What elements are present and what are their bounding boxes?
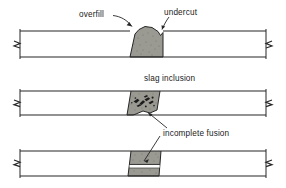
welding-defects-figure: overfill undercut (0, 0, 286, 188)
weld-bead-incomplete-fusion (128, 151, 161, 176)
figure-svg: overfill undercut (0, 0, 286, 188)
label-incomplete-fusion: incomplete fusion (163, 129, 230, 138)
unfused-gap (130, 165, 160, 168)
label-slag-inclusion: slag inclusion (144, 74, 196, 83)
plate-left-body-2 (20, 91, 128, 115)
plate-right-body-2 (160, 91, 266, 115)
label-overfill: overfill (79, 10, 104, 19)
plate-right-body-1 (163, 31, 266, 57)
plate-left-body-3 (20, 151, 128, 176)
label-undercut: undercut (164, 8, 198, 17)
plate-left-body-1 (20, 31, 128, 57)
plate-right-body-3 (162, 151, 266, 176)
